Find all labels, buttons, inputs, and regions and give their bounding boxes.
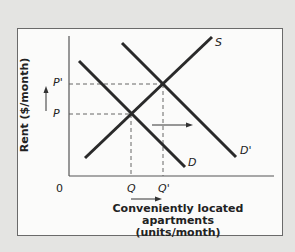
price-up-arrowhead-icon [44,86,49,93]
supply-curve-label: S [215,36,222,49]
quantity-right-arrowhead-icon [155,197,162,202]
y-axis-label: Rent ($/month) [18,58,31,153]
demand-shift-arrowhead-icon [186,123,193,128]
origin-label: 0 [56,182,63,195]
p-tick-label: P [53,107,60,120]
demand-curve-label: D [188,156,196,169]
supply-curve-s [85,37,212,158]
q-prime-tick-label: Q' [158,182,170,195]
q-tick-label: Q [127,182,136,195]
demand-curve-d-prime [122,43,236,157]
p-prime-tick-label: P' [53,76,63,89]
x-axis-label: Conveniently located apartments (units/m… [78,203,278,239]
demand-prime-curve-label: D' [240,144,252,157]
x-axis-label-line1: Conveniently located apartments [78,203,278,227]
x-axis-label-line2: (units/month) [78,227,278,239]
